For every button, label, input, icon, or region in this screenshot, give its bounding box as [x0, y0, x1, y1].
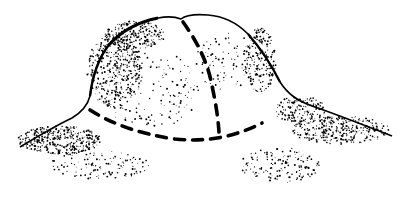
mound-illustration	[0, 0, 407, 211]
background	[0, 0, 407, 211]
